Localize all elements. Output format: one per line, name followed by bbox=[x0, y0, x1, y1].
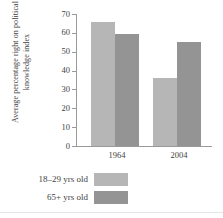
chart-figure: Average percentage right on political kn… bbox=[0, 0, 223, 218]
y-axis-label: Average percentage right on political kn… bbox=[11, 0, 51, 130]
legend-item: 65+ yrs old bbox=[8, 189, 128, 205]
legend-item: 18–29 yrs old bbox=[8, 171, 128, 187]
y-tick-label: 30 bbox=[52, 85, 70, 94]
bar-group bbox=[91, 14, 143, 146]
y-tick-label: 70 bbox=[52, 10, 70, 19]
y-tick-label: 10 bbox=[52, 123, 70, 132]
x-axis-tick-labels: 19642004 bbox=[77, 150, 212, 164]
chart-legend: 18–29 yrs old65+ yrs old bbox=[0, 170, 223, 210]
bar bbox=[91, 22, 115, 146]
y-axis-tick-labels: 706050403020100 bbox=[52, 8, 70, 152]
y-tick-label: 20 bbox=[52, 104, 70, 113]
plot-area: Average percentage right on political kn… bbox=[0, 0, 223, 168]
y-tick-label: 0 bbox=[52, 142, 70, 151]
legend-item-label: 65+ yrs old bbox=[47, 191, 94, 203]
legend-color-swatch bbox=[94, 173, 128, 186]
bar-groups bbox=[77, 14, 212, 146]
legend-item-label: 18–29 yrs old bbox=[39, 173, 95, 185]
bar bbox=[177, 42, 201, 146]
legend-color-swatch bbox=[94, 191, 128, 204]
x-tick-label: 1964 bbox=[91, 150, 143, 161]
bar-group bbox=[153, 14, 205, 146]
y-tick-label: 50 bbox=[52, 47, 70, 56]
x-axis-line bbox=[72, 146, 212, 147]
y-tick-label: 60 bbox=[52, 28, 70, 37]
footer-divider bbox=[0, 212, 223, 213]
y-tick-label: 40 bbox=[52, 66, 70, 75]
bar bbox=[153, 78, 177, 146]
x-tick-label: 2004 bbox=[153, 150, 205, 161]
bar bbox=[115, 34, 139, 146]
